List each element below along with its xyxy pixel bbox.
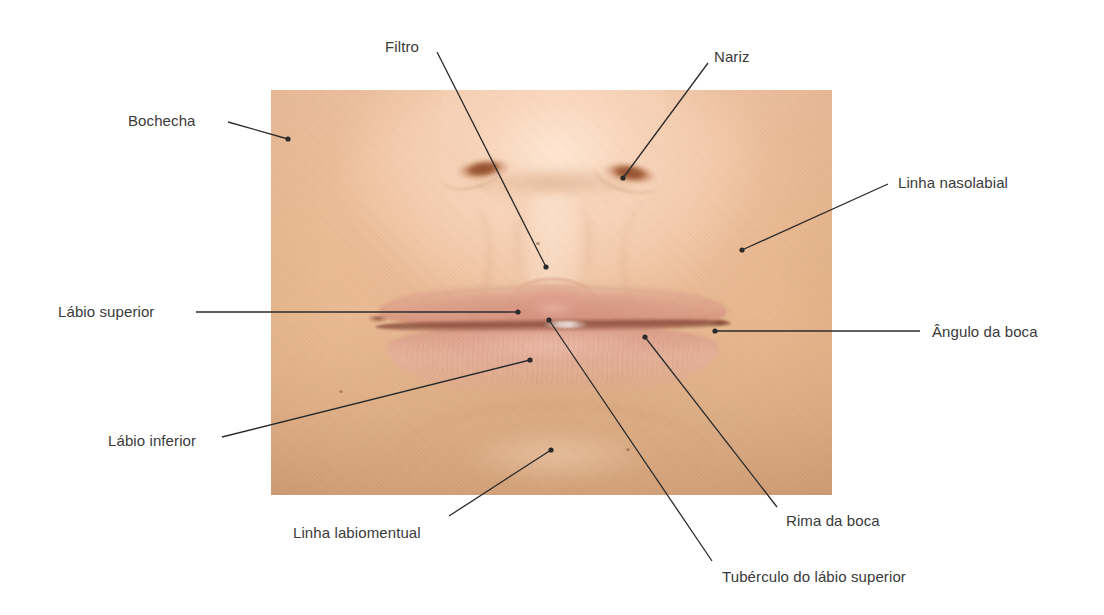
photo-vignette: [271, 90, 832, 495]
label-tuberculo-do-labio-superior: Tubérculo do lábio superior: [722, 568, 906, 585]
label-nariz: Nariz: [714, 48, 750, 65]
label-labio-inferior: Lábio inferior: [108, 432, 196, 449]
label-labio-superior: Lábio superior: [58, 303, 154, 320]
label-filtro: Filtro: [385, 38, 419, 55]
label-rima-da-boca: Rima da boca: [786, 512, 880, 529]
label-angulo-da-boca: Ângulo da boca: [932, 323, 1038, 340]
perioral-photograph: [271, 90, 832, 495]
label-linha-nasolabial: Linha nasolabial: [898, 174, 1008, 191]
figure-canvas: Bochecha Filtro Nariz Linha nasolabial L…: [0, 0, 1104, 615]
label-linha-labiomentual: Linha labiomentual: [293, 524, 421, 541]
label-bochecha: Bochecha: [128, 112, 196, 129]
